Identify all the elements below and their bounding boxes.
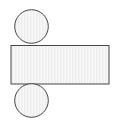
bottom-circle xyxy=(15,84,49,118)
diagram-canvas xyxy=(0,0,116,121)
center-rectangle xyxy=(11,46,109,85)
top-circle xyxy=(15,10,49,44)
diagram-svg xyxy=(0,0,116,121)
